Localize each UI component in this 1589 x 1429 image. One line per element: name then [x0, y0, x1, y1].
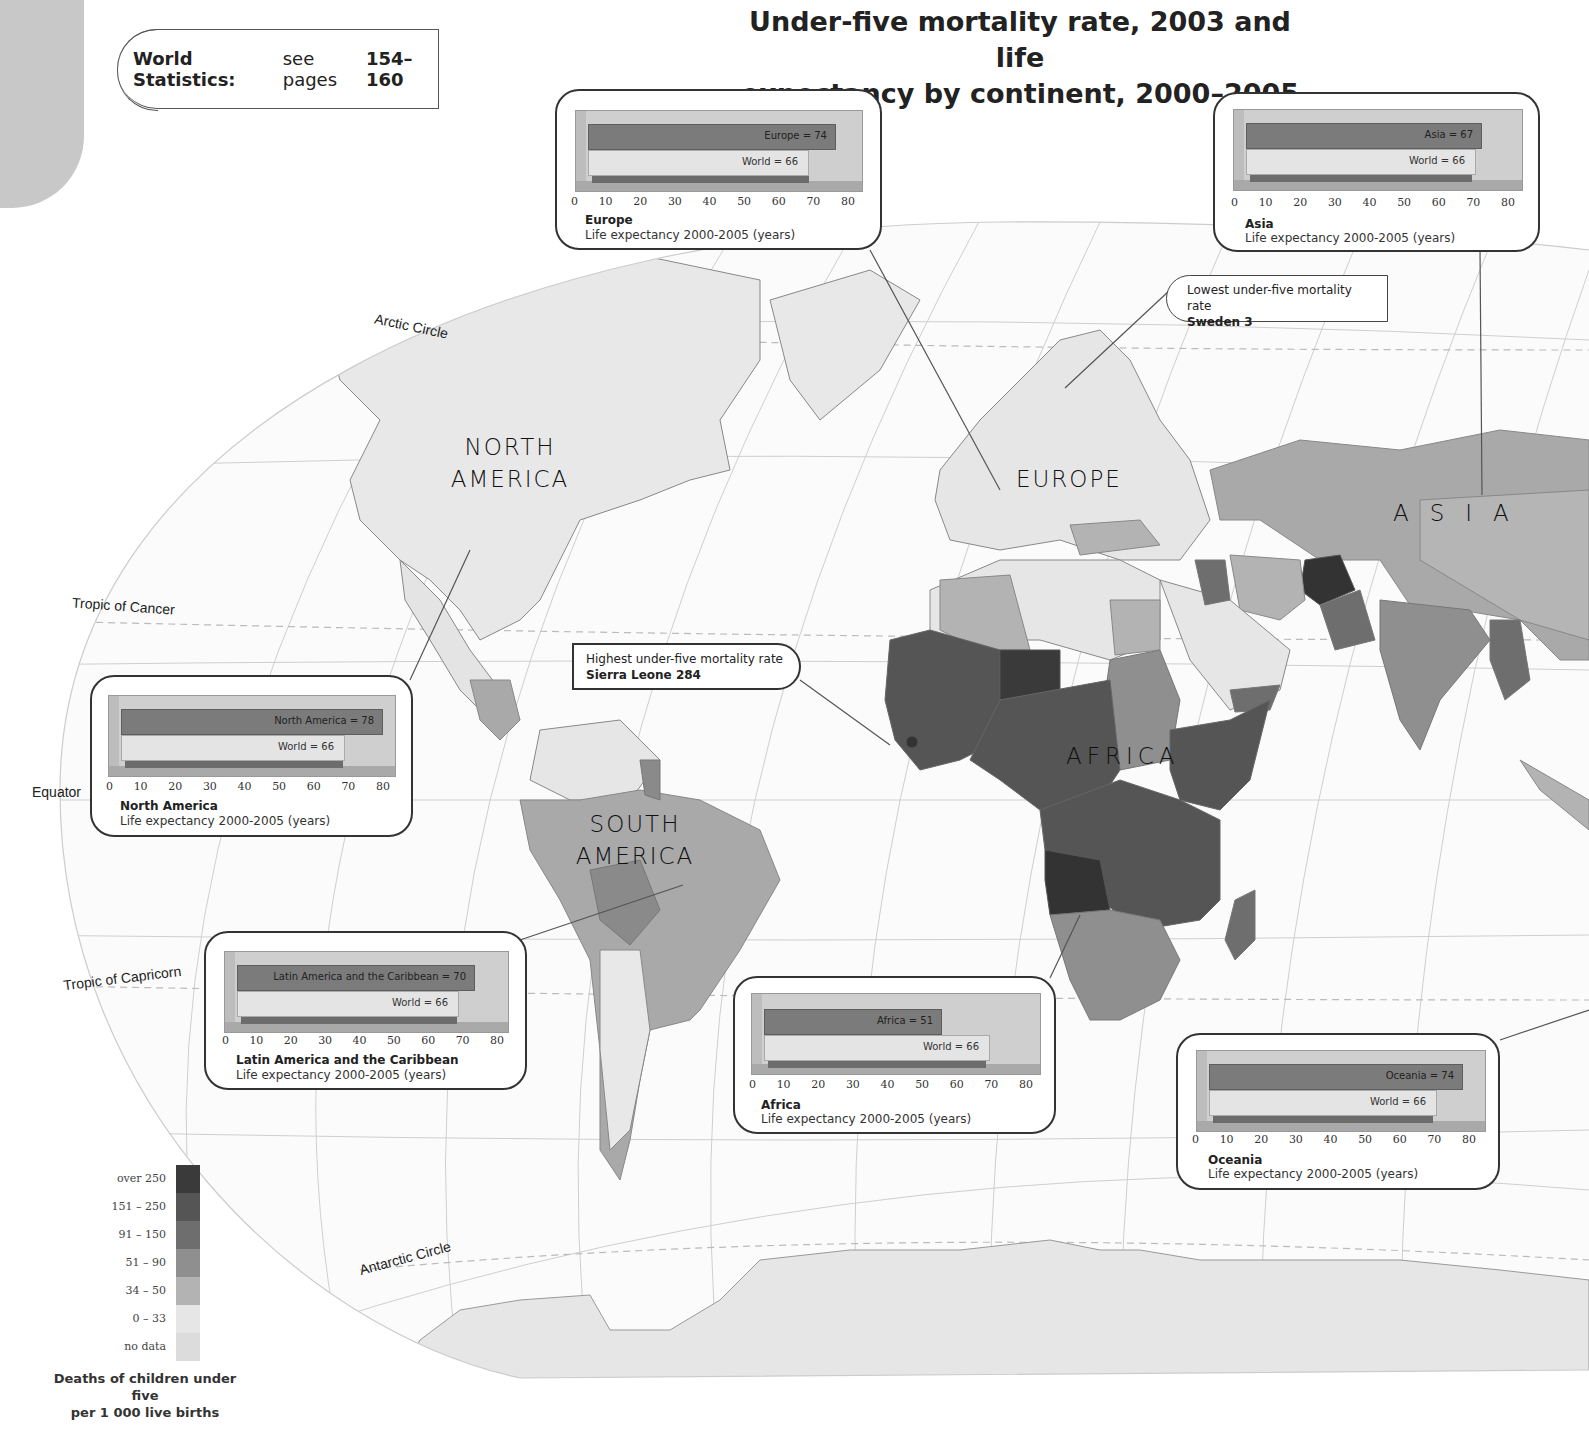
callout-europe: Europe = 74 World = 66 01020304050607080… [555, 89, 882, 250]
chart-frame: Africa = 51 World = 66 [751, 993, 1041, 1075]
chart-subtitle: Life expectancy 2000-2005 (years) [120, 814, 330, 828]
world-map: Arctic Circle Tropic of Cancer Equator T… [0, 0, 1589, 1429]
highest-mortality-note: Highest under-five mortality rate Sierra… [572, 643, 801, 690]
legend-row: no data [40, 1333, 200, 1361]
chart-frame: Europe = 74 World = 66 [575, 110, 863, 192]
chart-subtitle: Life expectancy 2000-2005 (years) [585, 228, 795, 242]
world-bar: World = 66 [1209, 1090, 1437, 1116]
north-america-line-1: NORTH [445, 431, 575, 463]
continent-label-asia: ASIA [1393, 497, 1530, 529]
asia-bar: Asia = 67 [1246, 123, 1482, 149]
world-bar: World = 66 [121, 735, 345, 761]
highest-mortality-label: Highest under-five mortality rate [586, 651, 787, 667]
legend-row: 0 – 33 [40, 1305, 200, 1333]
chart-region-title: Latin America and the Caribbean [236, 1053, 459, 1067]
legend-swatch [176, 1277, 200, 1305]
equator-label: Equator [32, 784, 81, 800]
legend-swatch [176, 1249, 200, 1277]
north-america-bar: North America = 78 [121, 709, 383, 735]
africa-bar: Africa = 51 [764, 1009, 942, 1035]
legend-row: 34 – 50 [40, 1277, 200, 1305]
continent-label-north-america: NORTH AMERICA [445, 431, 575, 495]
x-axis-ticks: 01020304050607080 [106, 780, 390, 793]
x-axis-ticks: 01020304050607080 [1231, 196, 1515, 209]
sierra-leone [906, 736, 918, 748]
chart-region-title: North America [120, 799, 218, 813]
latin-america-bar: Latin America and the Caribbean = 70 [237, 965, 475, 991]
chart-region-title: Europe [585, 213, 633, 227]
angola [1045, 850, 1110, 915]
legend-row: 51 – 90 [40, 1249, 200, 1277]
legend-swatch [176, 1221, 200, 1249]
legend-row: 91 – 150 [40, 1221, 200, 1249]
continent-label-south-america: SOUTH AMERICA [570, 808, 700, 872]
lowest-mortality-label: Lowest under-five mortality rate [1187, 282, 1375, 314]
x-axis-ticks: 01020304050607080 [1192, 1133, 1476, 1146]
highest-mortality-value: Sierra Leone 284 [586, 668, 701, 682]
north-america-line-2: AMERICA [445, 463, 575, 495]
lowest-mortality-value: Sweden 3 [1187, 315, 1253, 329]
callout-asia: Asia = 67 World = 66 01020304050607080 A… [1213, 92, 1540, 252]
callout-latin-america: Latin America and the Caribbean = 70 Wor… [204, 931, 527, 1090]
chart-frame: Oceania = 74 World = 66 [1196, 1050, 1486, 1132]
chart-subtitle: Life expectancy 2000-2005 (years) [236, 1068, 446, 1082]
legend-swatch [176, 1165, 200, 1193]
chart-frame: Asia = 67 World = 66 [1233, 109, 1523, 191]
legend-swatch [176, 1193, 200, 1221]
south-america-line-1: SOUTH [570, 808, 700, 840]
chart-region-title: Oceania [1208, 1153, 1262, 1167]
chart-subtitle: Life expectancy 2000-2005 (years) [761, 1112, 971, 1126]
chart-frame: Latin America and the Caribbean = 70 Wor… [224, 951, 509, 1033]
south-america-line-2: AMERICA [570, 840, 700, 872]
lowest-mortality-note: Lowest under-five mortality rate Sweden … [1166, 275, 1388, 322]
europe-bar: Europe = 74 [588, 124, 836, 150]
legend-swatch [176, 1305, 200, 1333]
x-axis-ticks: 01020304050607080 [749, 1078, 1033, 1091]
chart-region-title: Africa [761, 1098, 801, 1112]
legend-swatch [176, 1333, 200, 1361]
world-bar: World = 66 [764, 1035, 990, 1061]
legend-caption-line-2: per 1 000 live births [40, 1404, 250, 1421]
chart-frame: North America = 78 World = 66 [108, 695, 396, 777]
egypt [1110, 600, 1160, 655]
chart-subtitle: Life expectancy 2000-2005 (years) [1208, 1167, 1418, 1181]
x-axis-ticks: 01020304050607080 [222, 1034, 504, 1047]
callout-africa: Africa = 51 World = 66 01020304050607080… [733, 976, 1056, 1134]
legend-caption: Deaths of children under five per 1 000 … [40, 1370, 250, 1421]
world-bar: World = 66 [237, 991, 459, 1017]
chart-subtitle: Life expectancy 2000-2005 (years) [1245, 231, 1455, 245]
callout-north-america: North America = 78 World = 66 0102030405… [90, 675, 413, 837]
world-bar: World = 66 [1246, 149, 1476, 175]
x-axis-ticks: 01020304050607080 [571, 195, 855, 208]
oceania-bar: Oceania = 74 [1209, 1064, 1463, 1090]
chart-region-title: Asia [1245, 217, 1274, 231]
continent-label-europe: EUROPE [1016, 463, 1122, 495]
legend-caption-line-1: Deaths of children under five [40, 1370, 250, 1404]
callout-oceania: Oceania = 74 World = 66 0102030405060708… [1176, 1033, 1500, 1190]
world-bar: World = 66 [588, 150, 809, 176]
legend-row: 151 – 250 [40, 1193, 200, 1221]
legend-row: over 250 [40, 1165, 200, 1193]
continent-label-africa: AFRICA [1066, 740, 1180, 772]
